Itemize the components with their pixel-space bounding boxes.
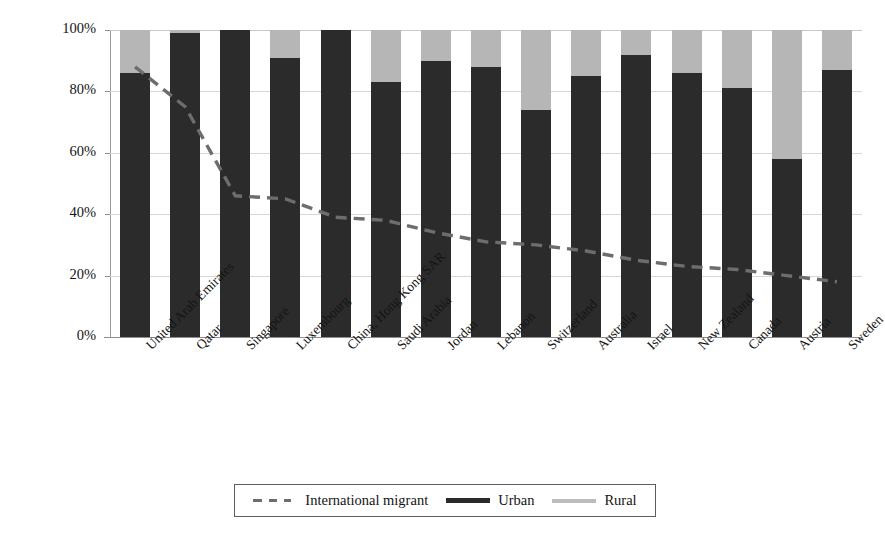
bar-segment-rural[interactable] — [672, 30, 702, 73]
bar-segment-rural[interactable] — [621, 30, 651, 55]
legend-item-international-migrant: International migrant — [244, 492, 437, 509]
bar-segment-urban[interactable] — [521, 110, 551, 337]
migration-urbanization-chart: % of total population 100%80%60%40%20%0%… — [0, 0, 885, 537]
x-axis-label: New Zealand — [695, 342, 706, 353]
bar-segment-urban[interactable] — [321, 30, 351, 337]
x-axis-label: Sweden — [845, 342, 856, 353]
legend-item-urban: Urban — [437, 492, 543, 509]
y-tick-label: 40% — [40, 205, 96, 220]
bar-group[interactable] — [521, 30, 551, 337]
light-gray-line-swatch-icon — [552, 499, 596, 503]
bar-group[interactable] — [672, 30, 702, 337]
bar-segment-rural[interactable] — [371, 30, 401, 82]
bar-segment-rural[interactable] — [722, 30, 752, 88]
bar-segment-rural[interactable] — [521, 30, 551, 110]
x-axis-label: China, Hong Kong SAR — [344, 342, 355, 353]
bar-group[interactable] — [571, 30, 601, 337]
bar-segment-rural[interactable] — [120, 30, 150, 73]
x-axis-label: United Arab Emirates — [143, 342, 154, 353]
bar-segment-rural[interactable] — [471, 30, 501, 67]
bar-group[interactable] — [270, 30, 300, 337]
bar-segment-rural[interactable] — [822, 30, 852, 70]
legend-label-urban: Urban — [498, 492, 534, 509]
legend-label-international-migrant: International migrant — [305, 492, 428, 509]
x-axis-label: Jordan — [444, 342, 455, 353]
x-axis-label: Singapore — [243, 342, 254, 353]
bar-group[interactable] — [120, 30, 150, 337]
y-tick-label: 100% — [40, 21, 96, 36]
x-axis-label: Israel — [644, 342, 655, 353]
bar-segment-urban[interactable] — [672, 73, 702, 337]
solid-dark-line-swatch-icon — [446, 498, 490, 503]
y-tick-label: 20% — [40, 267, 96, 282]
x-axis-label: Australia — [594, 342, 605, 353]
x-axis-label: Canada — [745, 342, 756, 353]
bar-segment-urban[interactable] — [270, 58, 300, 337]
bar-segment-rural[interactable] — [772, 30, 802, 159]
x-axis-label: Saudi Arabia — [394, 342, 405, 353]
bar-segment-urban[interactable] — [120, 73, 150, 337]
bar-segment-urban[interactable] — [471, 67, 501, 337]
y-tick-label: 80% — [40, 82, 96, 97]
bar-segment-rural[interactable] — [571, 30, 601, 76]
bar-segment-rural[interactable] — [270, 30, 300, 58]
bar-group[interactable] — [772, 30, 802, 337]
bar-segment-urban[interactable] — [220, 30, 250, 337]
y-tick-label: 60% — [40, 144, 96, 159]
x-axis-label: Switzerland — [544, 342, 555, 353]
plot-area — [110, 30, 862, 337]
legend-item-rural: Rural — [543, 492, 645, 509]
bar-group[interactable] — [220, 30, 250, 337]
bar-group[interactable] — [471, 30, 501, 337]
chart-legend: International migrant Urban Rural — [234, 484, 656, 517]
bar-group[interactable] — [321, 30, 351, 337]
bar-segment-urban[interactable] — [621, 55, 651, 337]
legend-label-rural: Rural — [604, 492, 636, 509]
y-tick-label: 0% — [40, 328, 96, 343]
x-axis-label: Qatar — [193, 342, 204, 353]
bar-group[interactable] — [822, 30, 852, 337]
x-axis-label: Austria — [795, 342, 806, 353]
bar-group[interactable] — [621, 30, 651, 337]
bar-segment-rural[interactable] — [421, 30, 451, 61]
bar-segment-urban[interactable] — [822, 70, 852, 337]
x-axis-label: Lebanon — [494, 342, 505, 353]
dashed-line-swatch-icon — [253, 499, 297, 502]
bar-group[interactable] — [421, 30, 451, 337]
bar-segment-urban[interactable] — [772, 159, 802, 337]
x-axis-label: Luxembourg — [293, 342, 304, 353]
